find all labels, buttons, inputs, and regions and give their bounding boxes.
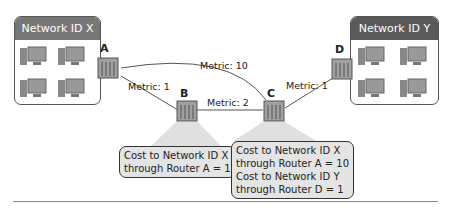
callout-line: through Router D = 1	[236, 183, 349, 196]
callout-line: through Router A = 10	[236, 157, 349, 170]
network-y-title: Network ID Y	[351, 17, 438, 40]
computer-icon	[400, 78, 428, 100]
link-a-c-label: Metric: 10	[200, 60, 248, 71]
router-b-callout: Cost to Network ID X through Router A = …	[119, 146, 236, 178]
router-c-label: C	[267, 87, 275, 100]
computer-icon	[358, 46, 386, 68]
computer-icon	[20, 78, 48, 100]
router-a-label: A	[100, 42, 109, 55]
router-c-callout: Cost to Network ID X through Router A = …	[231, 141, 354, 199]
computer-icon	[58, 78, 86, 100]
callout-line: Cost to Network ID X	[236, 144, 349, 157]
link-c-d-label: Metric: 1	[286, 80, 328, 91]
router-b-icon	[176, 100, 198, 122]
link-b-c-label: Metric: 2	[207, 97, 249, 108]
bottom-divider	[13, 201, 438, 202]
link-a-b-label: Metric: 1	[128, 81, 170, 92]
callout-line: Cost to Network ID Y	[236, 170, 349, 183]
computer-icon	[58, 46, 86, 68]
network-x-title: Network ID X	[15, 17, 100, 40]
router-c-icon	[263, 100, 285, 122]
router-d-icon	[331, 58, 353, 80]
router-b-label: B	[180, 87, 188, 100]
computer-icon	[20, 46, 48, 68]
callout-line: through Router A = 1	[124, 162, 231, 175]
computer-icon	[400, 46, 428, 68]
callout-line: Cost to Network ID X	[124, 149, 231, 162]
computer-icon	[358, 78, 386, 100]
router-d-label: D	[335, 43, 344, 56]
router-a-icon	[97, 57, 119, 79]
